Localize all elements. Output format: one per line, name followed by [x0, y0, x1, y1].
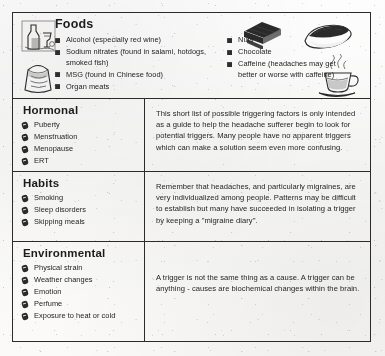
- habits-cell: Habits Smoking Sleep disorders Skipping …: [13, 172, 145, 241]
- list-item: Skipping meals: [13, 217, 144, 228]
- note-text: This short list of possible triggering f…: [156, 108, 360, 153]
- list-item: Perfume: [13, 299, 144, 310]
- foods-cell: Foods Alcohol (especially red wine) Sodi…: [13, 13, 370, 98]
- environmental-cell: Environmental Physical strain Weather ch…: [13, 242, 145, 341]
- section-foods: Foods Alcohol (especially red wine) Sodi…: [13, 13, 370, 99]
- note-text: A trigger is not the same thing as a cau…: [156, 272, 360, 294]
- list-item: Physical strain: [13, 263, 144, 274]
- list-item: Caffeine (headaches may get better or wo…: [217, 59, 357, 80]
- list-item: Weather changes: [13, 275, 144, 286]
- list-item: Puberty: [13, 120, 144, 131]
- foods-list-left: Alcohol (especially red wine) Sodium nit…: [45, 35, 217, 94]
- section-heading-habits: Habits: [13, 177, 144, 190]
- hormonal-list: Puberty Menstruation Menopause ERT: [13, 120, 144, 167]
- section-environmental: Environmental Physical strain Weather ch…: [13, 242, 370, 341]
- habits-list: Smoking Sleep disorders Skipping meals: [13, 193, 144, 228]
- trigger-chart-table: Foods Alcohol (especially red wine) Sodi…: [12, 12, 371, 342]
- list-item: Emotion: [13, 287, 144, 298]
- section-habits: Habits Smoking Sleep disorders Skipping …: [13, 172, 370, 242]
- environmental-list: Physical strain Weather changes Emotion …: [13, 263, 144, 322]
- list-item: Chocolate: [217, 47, 357, 58]
- list-item: Sleep disorders: [13, 205, 144, 216]
- list-item: Alcohol (especially red wine): [45, 35, 217, 46]
- list-item: Menstruation: [13, 132, 144, 143]
- list-item: MSG (found in Chinese food): [45, 70, 217, 81]
- list-item: Nuts: [217, 35, 357, 46]
- section-heading-hormonal: Hormonal: [13, 104, 144, 117]
- section-heading-environmental: Environmental: [13, 247, 144, 260]
- list-item: Organ meats: [45, 82, 217, 93]
- hormonal-cell: Hormonal Puberty Menstruation Menopause …: [13, 99, 145, 171]
- hormonal-note-cell: This short list of possible triggering f…: [145, 99, 370, 171]
- list-item: Sodium nitrates (found in salami, hotdog…: [45, 47, 217, 68]
- scanned-page: Foods Alcohol (especially red wine) Sodi…: [0, 0, 385, 356]
- list-item: Smoking: [13, 193, 144, 204]
- environmental-note-cell: A trigger is not the same thing as a cau…: [145, 242, 370, 341]
- note-text: Remember that headaches, and particularl…: [156, 181, 360, 226]
- list-item: Menopause: [13, 144, 144, 155]
- section-hormonal: Hormonal Puberty Menstruation Menopause …: [13, 99, 370, 172]
- habits-note-cell: Remember that headaches, and particularl…: [145, 172, 370, 241]
- list-item: ERT: [13, 156, 144, 167]
- list-item: Exposure to heat or cold: [13, 311, 144, 322]
